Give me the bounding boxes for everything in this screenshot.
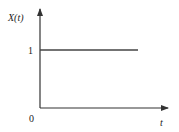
plot-canvas: X(t) 1 0 t	[0, 0, 179, 132]
y-axis-label: X(t)	[7, 12, 24, 24]
x-axis-label: t	[160, 117, 163, 128]
step-function-plot: X(t) 1 0 t	[0, 0, 179, 132]
y-tick-label-1: 1	[28, 45, 33, 56]
origin-label: 0	[29, 113, 34, 124]
